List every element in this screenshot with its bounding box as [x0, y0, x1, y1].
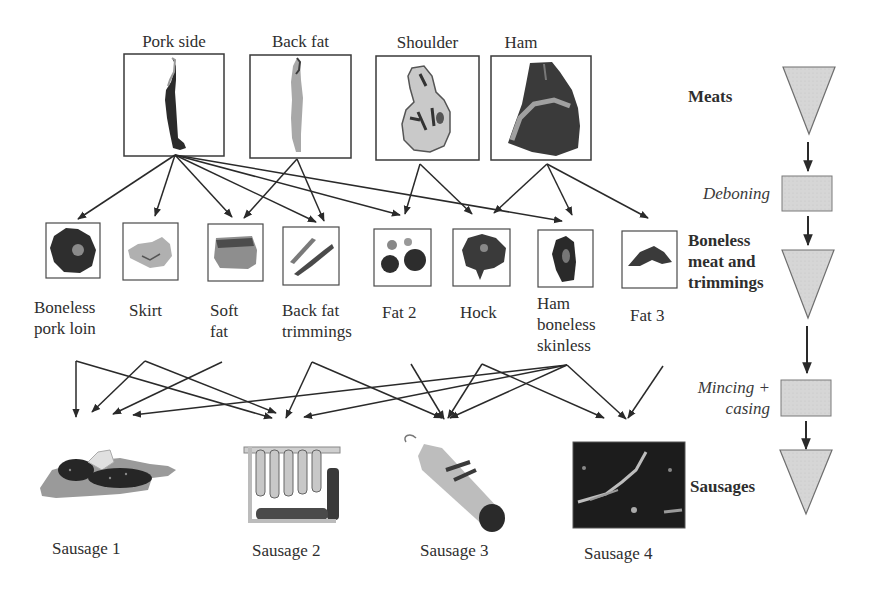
arrow-pork-side-to-back-fat-trimmings	[175, 155, 316, 222]
arrow-pork-side-to-fat-2	[175, 155, 400, 215]
arrow-pork-side-to-skirt	[155, 155, 175, 216]
arrow-ham-boneless-skinless-to-sausage-3	[450, 365, 567, 418]
arrow-back-fat-trimmings-to-sausage-3	[312, 362, 442, 418]
raw-cut-label: Shoulder	[376, 32, 479, 53]
piece-soft-fat	[208, 224, 263, 281]
arrow-ham-boneless-skinless-to-sausage-4	[567, 365, 626, 419]
arrow-ham-to-ham-boneless-skinless	[547, 164, 572, 215]
stage-boneless-triangle	[782, 250, 834, 318]
arrow-back-fat-trimmings-to-sausage-2	[286, 362, 312, 418]
stage-label-boneless-meat: Boneless meat and trimmings	[688, 230, 764, 293]
sausage-production-diagram	[0, 0, 877, 591]
piece-label: Skirt	[129, 300, 162, 321]
piece-label: Ham boneless skinless	[537, 293, 596, 356]
piece-hock	[453, 229, 510, 286]
process-label-mincing: Mincing + casing	[660, 377, 770, 419]
stage-sausages-triangle	[780, 450, 832, 514]
sausage-label: Sausage 1	[52, 538, 120, 559]
raw-cut-pork-side	[124, 54, 224, 156]
sausage-label: Sausage 3	[420, 540, 488, 561]
deboning-arrows	[78, 155, 648, 222]
sausage-1-image	[40, 450, 176, 498]
piece-boneless-pork-loin	[46, 223, 100, 278]
piece-label: Hock	[460, 302, 497, 323]
arrow-pork-side-to-boneless-pork-loin	[78, 155, 175, 219]
raw-cut-ham	[491, 56, 591, 160]
piece-fat-2	[374, 229, 431, 286]
salami-stick-icon	[405, 435, 505, 532]
mincing-arrows	[76, 361, 663, 419]
raw-cut-label: Back fat	[250, 31, 351, 52]
arrow-ham-to-fat-3	[547, 164, 648, 218]
hanging-sausages-rack-icon	[244, 447, 340, 523]
arrow-back-fat-to-back-fat-trimmings	[297, 159, 324, 221]
raw-cut-label: Ham	[491, 32, 551, 53]
sausage-4-image	[573, 442, 685, 528]
piece-label: Fat 3	[630, 305, 664, 326]
process-flow	[780, 67, 835, 514]
arrow-boneless-pork-loin-to-sausage-2	[76, 361, 272, 418]
piece-ham-boneless-skinless	[538, 230, 593, 287]
piece-label: Soft fat	[210, 300, 238, 342]
arrow-pork-side-to-soft-fat	[175, 155, 232, 217]
sliced-sausage-board-icon	[40, 450, 176, 498]
sausage-3-image	[405, 435, 505, 532]
raw-cut-label: Pork side	[124, 31, 224, 52]
process-label-deboning: Deboning	[670, 183, 770, 204]
raw-cut-shoulder	[376, 56, 479, 160]
stage-label-sausages: Sausages	[690, 476, 755, 497]
sausage-2-image	[244, 447, 340, 523]
piece-label: Back fat trimmings	[282, 300, 352, 342]
arrow-fat-3-to-sausage-4	[628, 366, 663, 418]
piece-label: Fat 2	[382, 302, 416, 323]
sausage-label: Sausage 4	[584, 543, 652, 564]
raw-cut-back-fat	[250, 55, 351, 158]
piece-fat-3	[622, 231, 677, 288]
stage-meats-triangle	[783, 67, 835, 134]
stage-label-meats: Meats	[688, 86, 732, 107]
sausage-label: Sausage 2	[252, 540, 320, 561]
process-deboning-box	[782, 176, 832, 211]
process-mincing-box	[781, 380, 831, 416]
piece-label: Boneless pork loin	[34, 297, 96, 339]
arrow-shoulder-to-fat-2	[405, 164, 420, 214]
piece-back-fat-trimmings	[283, 227, 339, 285]
arrow-pork-side-to-ham-boneless-skinless	[175, 155, 562, 221]
arrow-fat-2-to-sausage-3	[411, 364, 444, 419]
arrow-shoulder-to-hock	[420, 164, 472, 214]
arrow-ham-to-hock	[494, 164, 547, 213]
piece-skirt	[123, 223, 178, 280]
arrow-hock-to-sausage-3	[448, 364, 482, 418]
